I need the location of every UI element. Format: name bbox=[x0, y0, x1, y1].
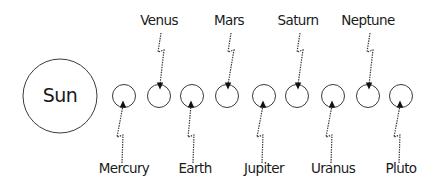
sun-label: Sun bbox=[43, 84, 77, 106]
arrowhead-icon bbox=[157, 83, 163, 90]
planet-neptune: Neptune bbox=[341, 12, 395, 108]
planet-pluto: Pluto bbox=[385, 85, 416, 177]
solar-system-diagram: Sun MercuryVenusEarthMarsJupiterSaturnUr… bbox=[0, 0, 438, 188]
planet-mars: Mars bbox=[214, 12, 245, 108]
planet-label-jupiter: Jupiter bbox=[243, 160, 285, 176]
connector-line-neptune bbox=[367, 33, 373, 85]
planet-venus: Venus bbox=[140, 12, 178, 108]
planet-saturn: Saturn bbox=[278, 12, 319, 108]
connector-line-saturn bbox=[297, 33, 303, 85]
connector-line-mercury bbox=[117, 106, 123, 164]
planets: MercuryVenusEarthMarsJupiterSaturnUranus… bbox=[99, 12, 417, 176]
planet-label-mars: Mars bbox=[214, 12, 245, 28]
planet-circle-mars bbox=[216, 85, 239, 108]
arrowhead-icon bbox=[225, 83, 231, 90]
connector-line-earth bbox=[188, 106, 194, 164]
sun: Sun bbox=[23, 59, 97, 133]
planet-earth: Earth bbox=[178, 85, 211, 177]
planet-label-earth: Earth bbox=[178, 160, 211, 176]
arrowhead-icon bbox=[188, 101, 194, 108]
planet-uranus: Uranus bbox=[311, 85, 356, 177]
planet-label-uranus: Uranus bbox=[311, 160, 356, 176]
planet-mercury: Mercury bbox=[99, 85, 150, 177]
planet-label-mercury: Mercury bbox=[99, 160, 150, 176]
planet-label-neptune: Neptune bbox=[341, 12, 395, 28]
planet-circle-saturn bbox=[286, 85, 309, 108]
arrowhead-icon bbox=[120, 101, 126, 108]
connector-line-venus bbox=[158, 33, 164, 85]
connector-line-mars bbox=[228, 33, 234, 85]
planet-label-pluto: Pluto bbox=[385, 160, 416, 176]
planet-label-venus: Venus bbox=[140, 12, 178, 28]
connector-line-jupiter bbox=[257, 106, 263, 164]
arrowhead-icon bbox=[295, 83, 301, 90]
arrowhead-icon bbox=[397, 101, 403, 108]
planet-circle-venus bbox=[148, 85, 171, 108]
planet-label-saturn: Saturn bbox=[278, 12, 319, 28]
arrowhead-icon bbox=[366, 83, 372, 90]
connector-line-pluto bbox=[394, 106, 400, 164]
arrowhead-icon bbox=[260, 101, 266, 108]
planet-circle-neptune bbox=[357, 85, 380, 108]
planet-jupiter: Jupiter bbox=[243, 85, 285, 177]
arrowhead-icon bbox=[329, 101, 335, 108]
connector-line-uranus bbox=[326, 106, 332, 164]
